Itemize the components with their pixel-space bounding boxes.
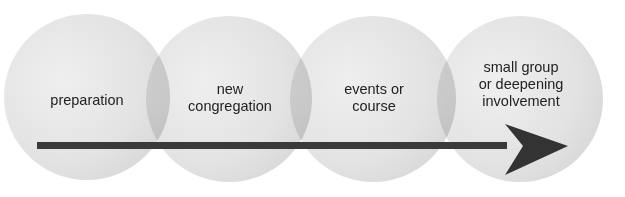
stage-label-line: events or <box>304 81 444 98</box>
stage-label-events-or-course: events or course <box>304 81 444 115</box>
stage-label-line: new <box>160 81 300 98</box>
stage-label-line: congregation <box>160 98 300 115</box>
stage-label-line: or deepening <box>451 76 591 93</box>
stage-label-line: involvement <box>451 93 591 110</box>
stage-label-small-group: small group or deepening involvement <box>451 59 591 110</box>
stage-label-line: course <box>304 98 444 115</box>
stage-label-text: preparation <box>50 92 123 108</box>
stage-label-line: small group <box>451 59 591 76</box>
stage-label-new-congregation: new congregation <box>160 81 300 115</box>
stage-label-preparation: preparation <box>17 92 157 109</box>
